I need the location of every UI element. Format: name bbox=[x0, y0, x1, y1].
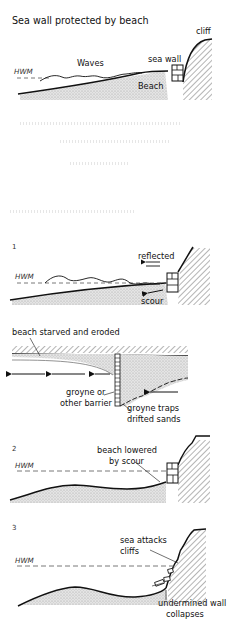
hwm-label: HWM bbox=[15, 461, 34, 470]
reflected-label: reflected bbox=[138, 252, 174, 261]
hwm-label: HWM bbox=[14, 67, 33, 76]
faded-mark bbox=[20, 122, 180, 125]
scour-label: scour bbox=[141, 297, 163, 306]
groyne-label-2: other barrier bbox=[60, 399, 112, 408]
beach-label: Beach bbox=[138, 82, 163, 91]
starved-sand bbox=[12, 354, 118, 375]
collapse-label-2: collapses bbox=[166, 610, 204, 619]
starved-label: beach starved and eroded bbox=[12, 328, 120, 337]
figure-title: Sea wall protected by beach bbox=[12, 16, 149, 25]
panel-protected-beach bbox=[17, 39, 212, 100]
sea-wall-icon bbox=[167, 273, 178, 292]
panel-wall-collapse bbox=[17, 529, 206, 606]
waves-label: Waves bbox=[77, 59, 104, 68]
attacks-label-1: sea attacks bbox=[120, 536, 167, 545]
panel-reflection-scour bbox=[10, 247, 210, 305]
traps-label-1: groyne traps bbox=[127, 404, 179, 413]
faded-mark bbox=[10, 210, 135, 213]
panel-number: 2 bbox=[12, 445, 16, 454]
attacks-label-2: cliffs bbox=[120, 547, 139, 556]
panel-number: 1 bbox=[12, 243, 16, 252]
faded-mark bbox=[60, 140, 170, 143]
lowered-label-1: beach lowered bbox=[97, 446, 157, 455]
lowered-label-2: by scour bbox=[109, 457, 144, 466]
sea-wall-label: sea wall bbox=[148, 55, 181, 64]
hwm-label: HWM bbox=[15, 556, 34, 565]
collapse-label-1: undermined wall bbox=[158, 599, 226, 608]
groyne-icon bbox=[115, 354, 120, 406]
sea-wall-icon bbox=[167, 463, 178, 483]
hwm-label: HWM bbox=[15, 272, 34, 281]
faded-mark bbox=[70, 162, 130, 165]
diagram-canvas bbox=[0, 0, 231, 626]
cliff-label: cliff bbox=[196, 27, 211, 36]
groyne-label-1: groyne or bbox=[66, 388, 105, 397]
cliff-hatch bbox=[183, 39, 212, 100]
panel-number: 3 bbox=[12, 524, 16, 533]
sea-wall-icon bbox=[172, 65, 183, 81]
trapped-sand bbox=[118, 354, 188, 406]
traps-label-2: drifted sands bbox=[127, 415, 181, 424]
